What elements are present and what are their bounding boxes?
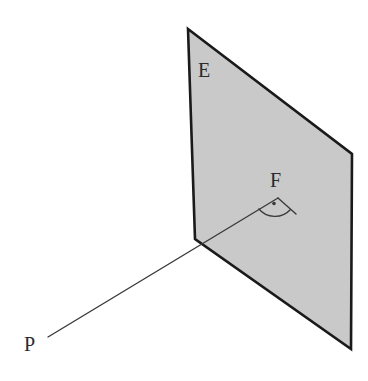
- geometry-figure: E F P: [0, 0, 368, 381]
- plane-label-E: E: [198, 60, 210, 80]
- point-label-F: F: [270, 170, 281, 190]
- right-angle-dot-marker: [272, 202, 276, 206]
- geometry-canvas: [0, 0, 368, 381]
- point-label-P: P: [24, 334, 35, 354]
